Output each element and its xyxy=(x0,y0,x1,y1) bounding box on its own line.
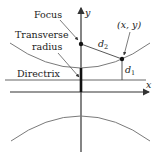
transverse-label-line1: Transverse xyxy=(15,29,69,40)
point-pointer xyxy=(124,32,130,55)
x-axis-label: x xyxy=(146,79,152,90)
focus-label: Focus xyxy=(34,9,62,20)
transverse-label-line2: radius xyxy=(32,41,62,52)
d2-label: d2 xyxy=(98,38,108,51)
focus-point xyxy=(79,42,83,46)
hyperbola-diagram: Focus Transverse radius Directrix (x, y)… xyxy=(0,0,157,160)
y-axis-label: y xyxy=(84,7,91,18)
curve-point xyxy=(120,57,124,61)
d1-label: d1 xyxy=(125,64,135,77)
transverse-pointer xyxy=(58,53,79,77)
point-label: (x, y) xyxy=(117,19,141,30)
directrix-label: Directrix xyxy=(17,68,61,79)
diagram-canvas: Focus Transverse radius Directrix (x, y)… xyxy=(0,0,157,160)
